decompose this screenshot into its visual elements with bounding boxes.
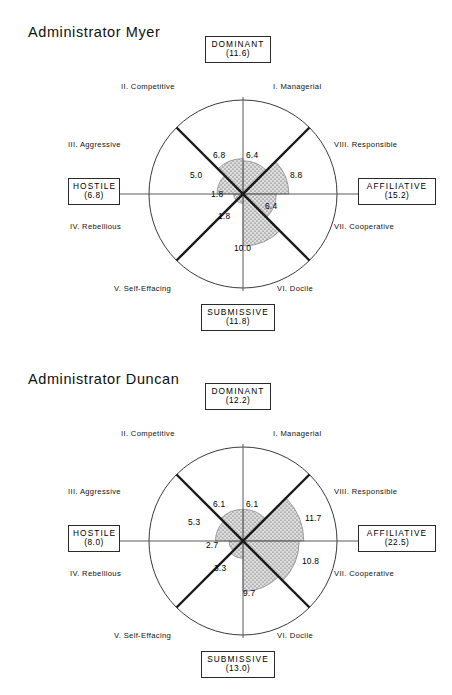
octant-label-iii-myer: III. Aggressive — [68, 140, 121, 149]
pole-box-dominant-myer: DOMINANT (11.6) — [205, 36, 271, 63]
octant-sectors-duncan — [215, 498, 303, 591]
value-label-v-duncan: 3.3 — [214, 563, 226, 573]
pole-value-dominant: (12.2) — [210, 396, 266, 405]
octant-label-vi-duncan: VI. Docile — [277, 631, 313, 640]
figure-page: Administrator Myer — [0, 0, 452, 695]
value-label-i-duncan: 6.1 — [246, 499, 258, 509]
pole-box-dominant-duncan: DOMINANT (12.2) — [205, 383, 271, 410]
pole-box-affiliative-myer: AFFILIATIVE (15.2) — [358, 178, 436, 205]
octant-label-iv-myer: IV. Rebellious — [70, 222, 121, 231]
value-label-viii-duncan: 11.7 — [305, 513, 321, 523]
value-label-iv-duncan: 2.7 — [206, 540, 218, 550]
value-label-iii-duncan: 5.3 — [188, 517, 200, 527]
value-label-vii-duncan: 10.8 — [302, 556, 319, 566]
pole-value-hostile: (8.0) — [73, 538, 115, 547]
pole-value-affiliative: (22.5) — [363, 538, 431, 547]
octant-label-ii-myer: II. Competitive — [121, 82, 175, 91]
octant-label-v-duncan: V. Self-Effacing — [114, 631, 171, 640]
value-label-ii-duncan: 6.1 — [213, 499, 225, 509]
octant-label-vii-myer: VII. Cooperative — [334, 222, 394, 231]
octant-label-ii-duncan: II. Competitive — [121, 429, 175, 438]
pole-box-hostile-myer: HOSTILE (6.8) — [68, 178, 120, 205]
value-label-iv-myer: 1.8 — [211, 189, 223, 199]
octant-label-vii-duncan: VII. Cooperative — [334, 569, 394, 578]
value-label-vi-myer: 10.0 — [234, 243, 251, 253]
octant-label-i-duncan: I. Managerial — [273, 429, 321, 438]
pole-box-affiliative-duncan: AFFILIATIVE (22.5) — [358, 525, 436, 552]
pole-value-hostile: (6.8) — [73, 191, 115, 200]
octant-label-iv-duncan: IV. Rebellious — [70, 569, 121, 578]
octant-label-i-myer: I. Managerial — [273, 82, 321, 91]
value-label-v-myer: 1.8 — [218, 211, 230, 221]
pole-box-hostile-duncan: HOSTILE (8.0) — [68, 525, 120, 552]
pole-box-submissive-duncan: SUBMISSIVE (13.0) — [201, 651, 275, 678]
pole-value-affiliative: (15.2) — [363, 191, 431, 200]
pole-value-submissive: (13.0) — [206, 664, 270, 673]
pole-value-dominant: (11.6) — [210, 49, 266, 58]
value-label-vii-myer: 6.4 — [265, 201, 277, 211]
panel-duncan: Administrator Duncan — [0, 347, 452, 694]
value-label-vi-duncan: 9.7 — [243, 588, 255, 598]
pole-value-submissive: (11.8) — [206, 317, 270, 326]
octant-label-viii-myer: VIII. Responsible — [334, 140, 397, 149]
octant-label-iii-duncan: III. Aggressive — [68, 487, 121, 496]
value-label-viii-myer: 8.8 — [290, 170, 302, 180]
value-label-i-myer: 6.4 — [246, 150, 258, 160]
value-label-iii-myer: 5.0 — [190, 170, 202, 180]
pole-box-submissive-myer: SUBMISSIVE (11.8) — [201, 304, 275, 331]
octant-label-vi-myer: VI. Docile — [277, 284, 313, 293]
panel-myer: Administrator Myer — [0, 0, 452, 347]
value-label-ii-myer: 6.8 — [213, 150, 225, 160]
octant-label-viii-duncan: VIII. Responsible — [334, 487, 397, 496]
octant-label-v-myer: V. Self-Effacing — [114, 284, 171, 293]
